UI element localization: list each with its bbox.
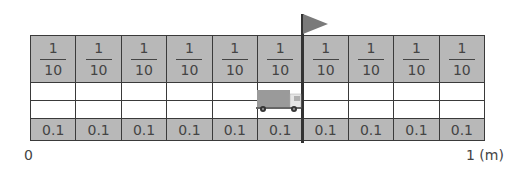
decimal-value: 0.1	[133, 122, 155, 138]
decimal-cell: 0.1	[31, 119, 76, 140]
denominator: 10	[44, 62, 62, 78]
fraction-cell: 110	[213, 36, 258, 82]
decimal-value: 0.1	[42, 122, 64, 138]
decimal-value: 0.1	[87, 122, 109, 138]
fraction-bar	[176, 59, 202, 61]
blank-cell	[31, 83, 76, 100]
fraction-bar	[449, 59, 475, 61]
fraction-cell: 110	[303, 36, 348, 82]
decimal-value: 0.1	[360, 122, 382, 138]
numerator: 1	[185, 40, 194, 56]
fraction-bar	[222, 59, 248, 61]
fraction-cell: 110	[440, 36, 484, 82]
fraction-row: 110 110 110 110 110 110 110 110 110 110	[31, 36, 484, 83]
denominator: 10	[453, 62, 471, 78]
flag-icon	[303, 14, 328, 34]
fraction-bar	[313, 59, 339, 61]
decimal-cell: 0.1	[440, 119, 484, 140]
decimal-value: 0.1	[451, 122, 473, 138]
decimal-cell: 0.1	[122, 119, 167, 140]
blank-cell	[394, 83, 439, 100]
blank-cell	[349, 101, 394, 118]
fraction-cell: 110	[76, 36, 121, 82]
fraction-cell: 110	[167, 36, 212, 82]
decimal-cell: 0.1	[258, 119, 303, 140]
fraction-bar	[86, 59, 112, 61]
fraction-bar	[267, 59, 293, 61]
blank-cell	[440, 101, 484, 118]
fraction-bar	[403, 59, 429, 61]
numerator: 1	[276, 40, 285, 56]
fraction-cell: 110	[349, 36, 394, 82]
blank-cell	[349, 83, 394, 100]
axis-start-label: 0	[24, 147, 33, 163]
decimal-value: 0.1	[224, 122, 246, 138]
blank-cell	[122, 83, 167, 100]
decimal-cell: 0.1	[303, 119, 348, 140]
fraction-cell: 110	[31, 36, 76, 82]
fraction-cell: 110	[122, 36, 167, 82]
decimal-cell: 0.1	[76, 119, 121, 140]
truck-icon	[256, 89, 302, 113]
axis-end-label: 1 (m)	[466, 147, 504, 163]
decimal-cell: 0.1	[394, 119, 439, 140]
numerator: 1	[367, 40, 376, 56]
numerator: 1	[94, 40, 103, 56]
decimal-row: 0.1 0.1 0.1 0.1 0.1 0.1 0.1 0.1 0.1 0.1	[31, 119, 484, 140]
fraction-cell: 110	[258, 36, 303, 82]
blank-cell	[303, 101, 348, 118]
numerator: 1	[230, 40, 239, 56]
decimal-cell: 0.1	[167, 119, 212, 140]
blank-cell	[76, 83, 121, 100]
denominator: 10	[271, 62, 289, 78]
blank-cell	[213, 101, 258, 118]
denominator: 10	[408, 62, 426, 78]
denominator: 10	[226, 62, 244, 78]
fraction-bar	[40, 59, 66, 61]
numerator: 1	[49, 40, 58, 56]
decimal-cell: 0.1	[213, 119, 258, 140]
denominator: 10	[362, 62, 380, 78]
numerator: 1	[140, 40, 149, 56]
blank-cell	[167, 83, 212, 100]
numerator: 1	[412, 40, 421, 56]
decimal-value: 0.1	[405, 122, 427, 138]
blank-cell	[31, 101, 76, 118]
blank-cell	[122, 101, 167, 118]
denominator: 10	[181, 62, 199, 78]
denominator: 10	[135, 62, 153, 78]
fraction-cell: 110	[394, 36, 439, 82]
fraction-bar	[131, 59, 157, 61]
blank-cell	[76, 101, 121, 118]
blank-cell	[394, 101, 439, 118]
blank-cell	[440, 83, 484, 100]
numerator: 1	[321, 40, 330, 56]
fraction-bar	[358, 59, 384, 61]
numerator: 1	[457, 40, 466, 56]
denominator: 10	[90, 62, 108, 78]
fraction-grid: 110 110 110 110 110 110 110 110 110 110	[30, 35, 485, 141]
decimal-value: 0.1	[315, 122, 337, 138]
decimal-cell: 0.1	[349, 119, 394, 140]
decimal-value: 0.1	[178, 122, 200, 138]
decimal-value: 0.1	[269, 122, 291, 138]
denominator: 10	[317, 62, 335, 78]
blank-cell	[213, 83, 258, 100]
blank-cell	[303, 83, 348, 100]
blank-cell	[167, 101, 212, 118]
